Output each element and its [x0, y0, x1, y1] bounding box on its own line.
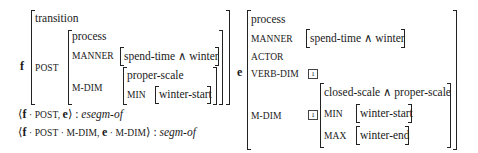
- variable-e: e: [237, 66, 242, 78]
- feature-min: MIN: [127, 89, 146, 101]
- value-min: winter-start: [360, 107, 413, 119]
- relation-esegm-of: ⟨f · POST, e⟩ : esegm-of: [18, 108, 123, 121]
- feature-post: POST: [35, 62, 59, 74]
- bracket-e-right: [453, 10, 457, 150]
- value-manner: spend-time ∧ winter: [310, 32, 405, 44]
- value-min: winter-start: [159, 88, 212, 100]
- coindex-tag: 1: [308, 110, 318, 120]
- bracket-f-left: [31, 10, 35, 105]
- type-process: process: [72, 30, 107, 42]
- relation-name: esegm-of: [81, 108, 123, 120]
- feature-manner: MANNER: [72, 50, 114, 62]
- feature-max: MAX: [324, 130, 346, 142]
- bracket-min-right: [207, 86, 211, 104]
- bracket-mdim-right: [213, 67, 217, 105]
- bracket-max-right: [405, 126, 409, 145]
- type-proper-scale: proper-scale: [127, 69, 184, 81]
- bracket-post-right: [219, 30, 223, 105]
- feature-manner: MANNER: [251, 33, 293, 45]
- path: · M-DIM: [107, 128, 146, 138]
- feature-actor: ACTOR: [251, 51, 284, 63]
- angle-close: ⟩ :: [68, 108, 81, 120]
- feature-verb-dim: VERB-DIM: [251, 68, 299, 80]
- bracket-e-left: [247, 10, 251, 150]
- bracket-manner-right: [401, 29, 405, 48]
- path: · POST,: [27, 110, 63, 120]
- value-manner: spend-time ∧ winter: [124, 50, 219, 62]
- coindex-tag: 1: [308, 69, 318, 79]
- bracket-min-right: [408, 104, 412, 123]
- relation-name: segm-of: [159, 126, 195, 138]
- type-closed-proper-scale: closed-scale ∧ proper-scale: [324, 86, 451, 98]
- relation-segm-of: ⟨f · POST · M-DIM, e · M-DIM⟩ : segm-of: [18, 126, 196, 139]
- type-process: process: [251, 13, 286, 25]
- feature-min: MIN: [324, 108, 343, 120]
- feature-m-dim: M-DIM: [72, 82, 103, 94]
- variable-f: f: [20, 60, 24, 72]
- type-transition: transition: [35, 12, 78, 24]
- bracket-f-right: [226, 10, 230, 105]
- value-max: winter-end: [360, 129, 410, 141]
- bracket-mdim-right: [447, 83, 451, 148]
- feature-m-dim: M-DIM: [251, 110, 282, 122]
- path: · POST · M-DIM,: [27, 128, 102, 138]
- angle-close: ⟩ :: [146, 126, 159, 138]
